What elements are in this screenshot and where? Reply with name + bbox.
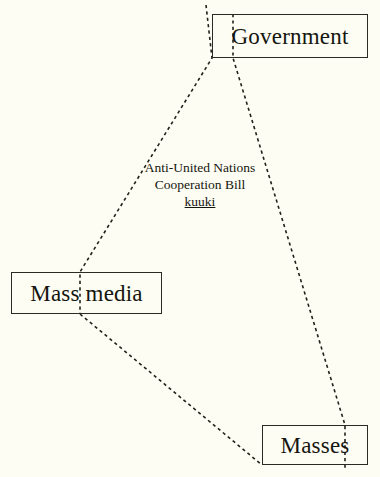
node-mass-media-label: Mass media [30, 282, 143, 305]
annotation-kuuki-underlined: kuuki [185, 193, 216, 210]
node-government: Government [212, 14, 368, 58]
edge-mass-media-to-masses [80, 314, 262, 465]
center-annotation: Anti-United Nations Cooperation Bill kuu… [118, 159, 282, 210]
node-government-label: Government [232, 25, 349, 48]
annotation-line-2: Cooperation Bill [118, 176, 282, 193]
edge-government-to-masses [233, 14, 345, 470]
diagram-canvas: Government Mass media Masses Anti-United… [0, 0, 380, 477]
node-masses-label: Masses [281, 434, 350, 457]
edge-layer [0, 0, 380, 477]
node-masses: Masses [262, 425, 368, 465]
annotation-line-1: Anti-United Nations [118, 159, 282, 176]
node-mass-media: Mass media [11, 272, 162, 314]
annotation-line-3: kuuki [118, 193, 282, 210]
